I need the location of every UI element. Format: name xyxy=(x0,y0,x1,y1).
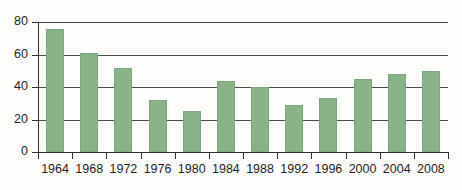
x-tick xyxy=(311,152,312,159)
x-axis-tick-label: 2004 xyxy=(383,162,411,176)
x-axis-tick-label: 2000 xyxy=(349,162,377,176)
bar xyxy=(183,111,201,152)
bar xyxy=(422,71,440,152)
y-tick-60 xyxy=(32,55,38,56)
x-tick xyxy=(243,152,244,159)
bar xyxy=(319,98,337,152)
x-tick xyxy=(414,152,415,159)
bar-chart: 020406080 196419681972197619801984198819… xyxy=(0,0,462,190)
y-axis-tick-label: 80 xyxy=(2,15,28,28)
x-axis-tick-label: 1980 xyxy=(178,162,206,176)
y-tick-80 xyxy=(32,22,38,23)
bar-series xyxy=(38,22,448,152)
x-tick xyxy=(346,152,347,159)
x-axis-tick-label: 1996 xyxy=(315,162,343,176)
x-tick xyxy=(106,152,107,159)
bar xyxy=(149,100,167,152)
x-tick xyxy=(141,152,142,159)
x-axis-labels: 1964196819721976198019841988199219962000… xyxy=(38,162,448,182)
x-tick xyxy=(175,152,176,159)
y-axis-tick-label: 0 xyxy=(2,145,28,158)
x-axis-tick-label: 1968 xyxy=(75,162,103,176)
x-axis-tick-label: 2008 xyxy=(417,162,445,176)
bar xyxy=(251,87,269,152)
x-axis-ticks xyxy=(38,152,448,159)
y-tick-40 xyxy=(32,87,38,88)
x-tick xyxy=(277,152,278,159)
bar xyxy=(285,105,303,152)
y-axis-tick-label: 60 xyxy=(2,48,28,61)
x-tick xyxy=(380,152,381,159)
x-axis-tick-label: 1992 xyxy=(280,162,308,176)
x-tick xyxy=(38,152,39,159)
y-axis-labels: 020406080 xyxy=(0,0,28,190)
x-tick xyxy=(209,152,210,159)
x-tick xyxy=(448,152,449,159)
y-tick-0 xyxy=(32,152,38,153)
bar xyxy=(388,74,406,152)
x-axis-tick-label: 1984 xyxy=(212,162,240,176)
y-tick-20 xyxy=(32,120,38,121)
x-axis-tick-label: 1972 xyxy=(110,162,138,176)
x-axis-tick-label: 1976 xyxy=(144,162,172,176)
x-axis-tick-label: 1988 xyxy=(246,162,274,176)
bar xyxy=(114,68,132,153)
bar xyxy=(217,81,235,153)
bar xyxy=(46,29,64,153)
x-axis-tick-label: 1964 xyxy=(41,162,69,176)
bar xyxy=(354,79,372,152)
bar xyxy=(80,53,98,152)
x-tick xyxy=(72,152,73,159)
y-axis-tick-label: 20 xyxy=(2,113,28,126)
y-axis-tick-label: 40 xyxy=(2,80,28,93)
